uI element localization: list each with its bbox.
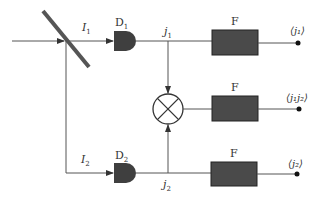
interferometer-diagram: I1 I2 D1 D2 j1 j2 F F F ⟨j₁⟩ ⟨j₁j₂⟩ ⟨j₂⟩ [0,0,330,198]
output-label-j1j2: ⟨j₁j₂⟩ [286,92,308,103]
label-i2: I2 [80,153,90,168]
filter-label-1: F [231,15,239,28]
label-d1: D1 [115,16,128,31]
label-j1: j1 [161,25,172,40]
filter-label-3: F [230,147,238,160]
multiplier-icon [153,94,183,124]
output-terminal-2 [297,107,302,112]
output-terminal-1 [296,41,301,46]
output-label-j2: ⟨j₂⟩ [288,158,303,169]
filter-label-2: F [231,81,239,94]
filter-box-2 [212,96,258,121]
label-j2: j2 [160,178,171,193]
filter-box-3 [211,162,257,186]
label-i1: I1 [81,21,91,36]
label-d2: D2 [115,149,128,164]
output-label-j1: ⟨j₁⟩ [290,25,305,36]
output-terminal-3 [295,172,300,177]
filter-box-1 [212,30,258,55]
detector-d2 [114,163,136,183]
detector-d1 [114,31,136,51]
